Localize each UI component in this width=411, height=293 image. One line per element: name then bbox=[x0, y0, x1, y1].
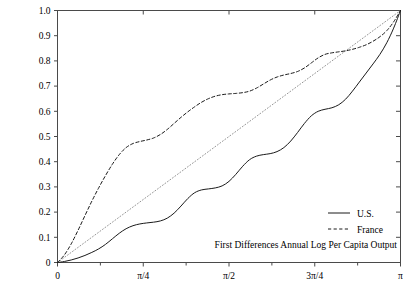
y-tick-label: 0.2 bbox=[39, 207, 51, 217]
x-tick-label: 3π/4 bbox=[306, 271, 323, 281]
y-tick-label: 1.0 bbox=[39, 6, 51, 16]
x-tick-label: 0 bbox=[55, 271, 60, 281]
y-tick-label: 0 bbox=[46, 258, 51, 268]
x-tick-label: π bbox=[398, 271, 403, 281]
x-tick-label: π/4 bbox=[137, 271, 149, 281]
y-tick-label: 0.4 bbox=[39, 157, 51, 167]
y-tick-label: 0.5 bbox=[39, 132, 51, 142]
y-tick-label: 0.7 bbox=[39, 81, 51, 91]
chart-container: 00.10.20.30.40.50.60.70.80.91.0 0π/4π/23… bbox=[0, 0, 411, 293]
y-tick-label: 0.8 bbox=[39, 56, 51, 66]
y-tick-label: 0.9 bbox=[39, 31, 51, 41]
y-tick-label: 0.1 bbox=[39, 233, 51, 243]
x-tick-label: π/2 bbox=[223, 271, 235, 281]
legend-label-france: France bbox=[357, 225, 383, 235]
first-differences-spectral-distribution-chart: 00.10.20.30.40.50.60.70.80.91.0 0π/4π/23… bbox=[0, 0, 411, 293]
y-tick-label: 0.3 bbox=[39, 182, 51, 192]
legend-label-us: U.S. bbox=[357, 209, 374, 219]
chart-caption: First Differences Annual Log Per Capita … bbox=[215, 240, 398, 250]
y-tick-label: 0.6 bbox=[39, 107, 51, 117]
